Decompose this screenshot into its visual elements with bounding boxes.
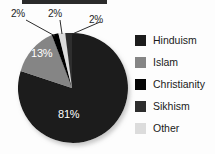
legend-swatch-hinduism	[135, 35, 146, 46]
legend-item-hinduism: Hinduism	[135, 29, 215, 51]
pie-callout-other: 2%	[48, 8, 62, 19]
pie-value-hinduism: 81%	[58, 108, 79, 120]
legend-item-other: Other	[135, 117, 215, 139]
chart-legend: Hinduism Islam Christianity Sikhism Othe…	[135, 29, 215, 139]
legend-item-christianity: Christianity	[135, 73, 215, 95]
legend-swatch-islam	[135, 57, 146, 68]
legend-swatch-sikhism	[135, 101, 146, 112]
legend-item-islam: Islam	[135, 51, 215, 73]
legend-swatch-other	[135, 123, 146, 134]
pie-chart-figure: 2% 2% 2% 13% 81% Hinduism Islam Christia…	[0, 0, 215, 154]
legend-swatch-christianity	[135, 79, 146, 90]
legend-item-sikhism: Sikhism	[135, 95, 215, 117]
legend-label-islam: Islam	[153, 57, 178, 68]
legend-label-other: Other	[153, 123, 179, 134]
pie-value-islam: 13%	[31, 47, 52, 59]
legend-label-sikhism: Sikhism	[153, 101, 190, 112]
pie-callout-christianity: 2%	[11, 8, 25, 19]
legend-label-christianity: Christianity	[153, 79, 205, 90]
leader-line-christianity	[26, 20, 55, 36]
leader-line-other	[60, 20, 62, 34]
legend-label-hinduism: Hinduism	[153, 35, 197, 46]
pie-callout-sikhism: 2%	[89, 14, 103, 25]
